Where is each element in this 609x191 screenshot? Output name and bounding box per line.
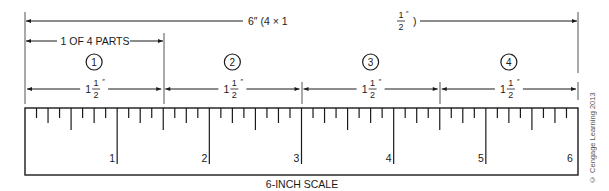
overall-dimension-inch: ″	[406, 10, 409, 17]
part-dim-frac-den: 2	[370, 90, 375, 100]
inch-label-6: 6	[567, 152, 573, 164]
part-dim-frac-den: 2	[232, 90, 237, 100]
six-inch-scale-diagram: 6″ (4 × 1 1 2 ″ ) 1 OF 4 PARTS 1112″2112…	[0, 0, 609, 191]
part-dim-frac-num: 1	[94, 78, 99, 88]
part-3: 3112″	[304, 54, 438, 100]
inch-label-5: 5	[478, 152, 484, 164]
inch-label-2: 2	[201, 152, 207, 164]
inch-label-3: 3	[294, 152, 300, 164]
part-dim-inch-mark: ″	[102, 78, 105, 85]
part-number: 2	[230, 57, 236, 68]
scale-title: 6-INCH SCALE	[266, 178, 338, 190]
overall-dimension-frac-num: 1	[398, 10, 403, 20]
part-dim-inch-mark: ″	[379, 78, 382, 85]
overall-dimension-suffix: )	[413, 15, 417, 27]
part-dim-frac-den: 2	[94, 90, 99, 100]
copyright-notice: © Cengage Learning 2013	[588, 104, 600, 184]
part-dim-frac-den: 2	[508, 90, 513, 100]
part-dim-inch-mark: ″	[517, 78, 520, 85]
part-dim-frac-num: 1	[508, 78, 513, 88]
part-dimension-label: 1 OF 4 PARTS	[60, 35, 129, 47]
diagram-canvas: 6″ (4 × 1 1 2 ″ ) 1 OF 4 PARTS 1112″2112…	[0, 0, 609, 191]
part-dim-frac-num: 1	[232, 78, 237, 88]
overall-dimension-frac-den: 2	[398, 22, 403, 32]
part-dim-whole: 1	[85, 83, 91, 95]
part-number: 1	[91, 57, 97, 68]
ruler: 123456	[25, 108, 578, 175]
part-number: 3	[368, 57, 374, 68]
part-dim-inch-mark: ″	[240, 78, 243, 85]
part-1: 1112″	[27, 54, 161, 100]
part-dim-whole: 1	[362, 83, 368, 95]
part-number: 4	[506, 57, 512, 68]
part-dim-whole: 1	[500, 83, 506, 95]
part-dim-whole: 1	[223, 83, 229, 95]
inch-label-4: 4	[386, 152, 392, 164]
part-2: 2112″	[165, 54, 299, 100]
part-4: 4112″	[442, 54, 576, 100]
inch-label-1: 1	[109, 152, 115, 164]
overall-dimension: 6″ (4 × 1 1 2 ″ )	[26, 10, 577, 32]
extension-lines	[25, 12, 578, 104]
overall-dimension-prefix: 6″ (4 × 1	[248, 15, 288, 27]
part-dim-frac-num: 1	[370, 78, 375, 88]
part-dimension: 1 OF 4 PARTS	[26, 35, 163, 47]
